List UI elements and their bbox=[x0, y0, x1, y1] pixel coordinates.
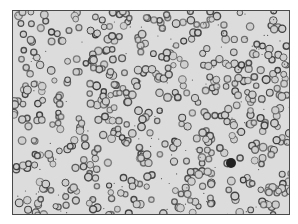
blood-cells-layer bbox=[13, 11, 290, 215]
leukocyte bbox=[226, 158, 236, 168]
micrograph-image: blood smear micrograph bbox=[12, 10, 290, 215]
